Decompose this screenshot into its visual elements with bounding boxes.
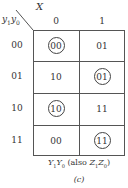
- row-header-10: 10: [6, 103, 28, 113]
- stable-state-circle: 00: [48, 37, 65, 54]
- column-variable-label: X: [36, 1, 43, 12]
- table-cell: 01: [79, 61, 125, 92]
- stable-state-circle: 11: [94, 132, 111, 149]
- row-header-11: 11: [6, 135, 28, 145]
- row-header-00: 00: [6, 40, 28, 50]
- row-header-01: 01: [6, 71, 28, 81]
- figure-label: (c): [33, 175, 125, 184]
- table-cell: 01: [79, 30, 125, 61]
- column-header-1: 1: [79, 16, 125, 26]
- column-header-0: 0: [33, 16, 79, 26]
- table-cell: 00: [33, 125, 79, 156]
- table-cell: 11: [79, 125, 125, 156]
- table-caption: Y1Y0 (also Z1Z0): [33, 158, 125, 169]
- stable-state-circle: 01: [94, 68, 111, 85]
- table-cell: 00: [33, 30, 79, 61]
- row-variable-label: y1y0: [2, 14, 20, 26]
- table-cell: 10: [33, 93, 79, 124]
- table-cell: 11: [79, 93, 125, 124]
- stable-state-circle: 10: [48, 100, 65, 117]
- table-cell: 10: [33, 61, 79, 92]
